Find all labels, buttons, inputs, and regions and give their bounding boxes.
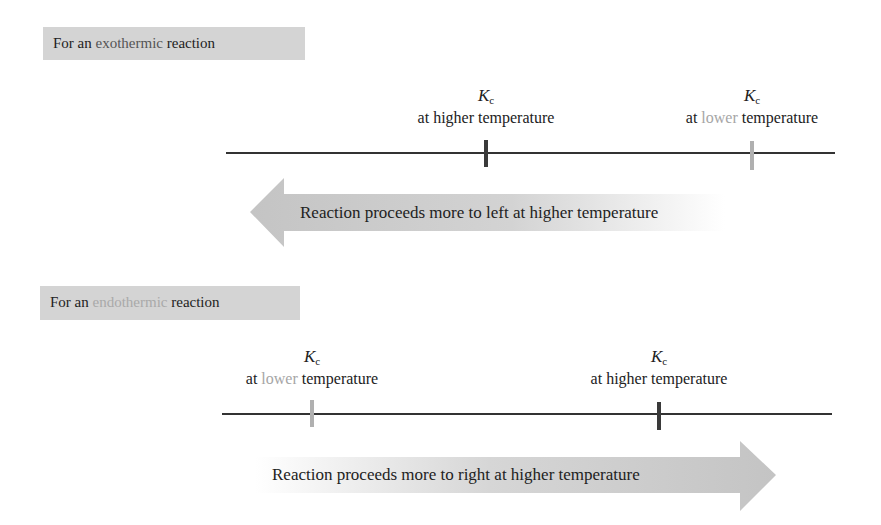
kc-line-suffix: temperature xyxy=(738,109,818,126)
kc-symbol: K xyxy=(304,347,315,366)
kc-line-prefix: at xyxy=(418,109,434,126)
exothermic-heading-suffix: reaction xyxy=(163,35,215,51)
exo-arrow-text: Reaction proceeds more to left at higher… xyxy=(300,203,658,223)
endothermic-heading-suffix: reaction xyxy=(167,294,219,310)
arrows-layer xyxy=(0,0,881,525)
kc-temp-word-lower: lower xyxy=(701,109,737,126)
endo-arrow-text: Reaction proceeds more to right at highe… xyxy=(272,465,640,485)
kc-line-prefix: at xyxy=(686,109,702,126)
kc-temp-word-lower: lower xyxy=(261,370,297,387)
endo-tick-higher-temp xyxy=(657,402,661,430)
endothermic-heading-prefix: For an xyxy=(50,294,93,310)
kc-temp-word-higher: higher xyxy=(433,109,474,126)
kc-symbol: K xyxy=(744,86,755,105)
endothermic-heading: For an endothermic reaction xyxy=(40,286,300,320)
endo-kc-lower-label: Kc at lower temperature xyxy=(246,348,378,388)
endothermic-keyword: endothermic xyxy=(93,294,168,310)
exothermic-keyword: exothermic xyxy=(96,35,163,51)
kc-line-suffix: temperature xyxy=(647,370,727,387)
kc-subscript: c xyxy=(755,94,760,106)
endo-kc-higher-label: Kc at higher temperature xyxy=(591,348,728,388)
kc-line-prefix: at xyxy=(591,370,607,387)
kc-line-suffix: temperature xyxy=(474,109,554,126)
endo-tick-lower-temp xyxy=(310,400,314,427)
kc-subscript: c xyxy=(662,355,667,367)
kc-subscript: c xyxy=(315,355,320,367)
kc-symbol: K xyxy=(478,86,489,105)
exo-kc-higher-label: Kc at higher temperature xyxy=(418,87,555,127)
exothermic-heading-prefix: For an xyxy=(53,35,96,51)
exo-kc-axis xyxy=(226,152,835,154)
exo-tick-higher-temp xyxy=(484,140,488,167)
exothermic-heading: For an exothermic reaction xyxy=(43,27,305,60)
kc-line-prefix: at xyxy=(246,370,262,387)
kc-subscript: c xyxy=(489,94,494,106)
kc-temp-word-higher: higher xyxy=(606,370,647,387)
exo-tick-lower-temp xyxy=(750,141,754,170)
exo-kc-lower-label: Kc at lower temperature xyxy=(686,87,818,127)
kc-line-suffix: temperature xyxy=(298,370,378,387)
kc-symbol: K xyxy=(651,347,662,366)
